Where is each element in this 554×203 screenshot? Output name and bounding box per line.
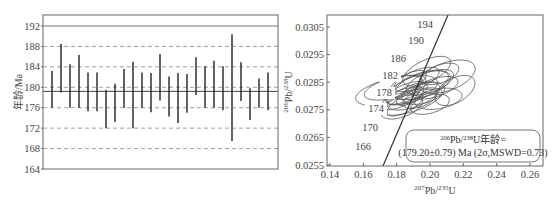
y-tick-label: 0.0255 <box>295 160 324 171</box>
x-tick-label: 0.18 <box>387 169 405 180</box>
concordia-age-label: 190 <box>408 35 424 46</box>
y-tick-label: 0.0265 <box>295 132 324 143</box>
x-tick-label: 0.20 <box>421 169 439 180</box>
right-x-axis-label: 207Pb/235U <box>414 184 456 196</box>
left-y-axis-label: 年龄/Ma <box>12 73 24 110</box>
y-tick-label: 0.0285 <box>295 77 324 88</box>
concordia-diagram: 194190186182178174170166 0.02550.02650.0… <box>282 15 548 196</box>
y-tick-label: 176 <box>24 102 40 113</box>
concordia-age-label: 186 <box>390 53 406 64</box>
x-tick-label: 0.16 <box>354 169 372 180</box>
y-tick-label: 0.0295 <box>295 49 324 60</box>
age-annotation-box: 206Pb/238U年龄= (179.20±0.79) Ma (2σ,MSWD=… <box>398 130 547 162</box>
left-y-tick-labels: 164168172176180184188192 <box>24 21 43 175</box>
y-tick-label: 164 <box>24 164 41 175</box>
y-tick-label: 184 <box>24 61 41 72</box>
figure: 164168172176180184188192 年龄/Ma 194190186… <box>0 0 554 203</box>
y-tick-label: 192 <box>24 21 40 32</box>
x-tick-label: 0.26 <box>521 169 539 180</box>
concordia-age-label: 178 <box>376 87 392 98</box>
y-tick-label: 0.0275 <box>295 104 324 115</box>
annotation-line-2: (179.20±0.79) Ma (2σ,MSWD=0.73) <box>398 147 547 159</box>
concordia-age-label: 166 <box>355 141 371 152</box>
error-ellipse <box>418 59 462 90</box>
x-tick-label: 0.14 <box>321 169 340 180</box>
right-y-axis-label: 206Pb/238U <box>282 70 294 112</box>
y-tick-label: 188 <box>24 41 40 52</box>
y-tick-label: 172 <box>24 123 40 134</box>
x-tick-label: 0.24 <box>487 169 506 180</box>
right-y-tick-labels: 0.02550.02650.02750.02850.02950.0305 <box>295 22 330 171</box>
y-tick-label: 180 <box>24 82 40 93</box>
annotation-line-1: 206Pb/238U年龄= <box>440 133 506 145</box>
concordia-age-label: 170 <box>362 122 378 133</box>
concordia-age-label: 194 <box>417 19 434 30</box>
age-errorbar-chart: 164168172176180184188192 年龄/Ma <box>12 15 278 175</box>
x-tick-label: 0.22 <box>454 169 472 180</box>
concordia-age-label: 182 <box>382 70 398 81</box>
y-tick-label: 168 <box>24 143 40 154</box>
concordia-age-label: 174 <box>368 103 385 114</box>
y-tick-label: 0.0305 <box>295 22 324 33</box>
